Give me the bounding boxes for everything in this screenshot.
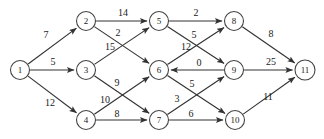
edge-weight-5-8: 2	[194, 7, 199, 18]
edge-weight-1-4: 12	[45, 97, 55, 108]
node-label-2: 2	[84, 16, 89, 26]
edge-weight-4-7: 8	[115, 108, 120, 119]
node-2: 2	[77, 12, 96, 31]
network-diagram-figure: 75121421591082512536082511 1234567891011	[0, 0, 324, 139]
node-label-1: 1	[18, 65, 23, 75]
edge-weight-7-9: 3	[175, 93, 180, 104]
edge-2-to-6	[94, 27, 149, 64]
node-6: 6	[150, 61, 169, 80]
node-label-10: 10	[231, 115, 241, 125]
edge-weight-10-11: 11	[263, 91, 273, 102]
edge-weight-9-11: 25	[266, 56, 276, 67]
node-9: 9	[225, 61, 244, 80]
node-label-4: 4	[84, 115, 89, 125]
edge-weight-2-5: 14	[118, 7, 128, 18]
node-7: 7	[150, 111, 169, 130]
edge-weight-1-3: 5	[51, 56, 56, 67]
node-label-3: 3	[84, 65, 89, 75]
edge-weight-7-10: 6	[189, 108, 194, 119]
node-1: 1	[11, 61, 30, 80]
edge-weight-6-10: 5	[190, 78, 195, 89]
node-label-9: 9	[232, 65, 237, 75]
edge-3-to-5	[94, 28, 149, 65]
edge-weight-1-2: 7	[44, 29, 49, 40]
edge-weight-9-6: 0	[197, 57, 202, 68]
edge-weight-6-8: 12	[181, 41, 191, 52]
node-label-5: 5	[157, 16, 162, 26]
network-diagram-canvas: 75121421591082512536082511 1234567891011	[0, 0, 324, 139]
node-8: 8	[225, 12, 244, 31]
node-4: 4	[77, 111, 96, 130]
edge-weight-2-6: 2	[116, 27, 121, 38]
node-label-7: 7	[157, 115, 162, 125]
node-5: 5	[150, 12, 169, 31]
node-label-8: 8	[232, 16, 237, 26]
edge-weight-8-11: 8	[269, 28, 274, 39]
edge-weight-3-7: 9	[115, 77, 120, 88]
edge-weight-3-5: 15	[105, 41, 115, 52]
edge-weight-5-9: 5	[192, 29, 197, 40]
edge-weight-4-6: 10	[100, 94, 110, 105]
node-3: 3	[77, 61, 96, 80]
node-label-11: 11	[301, 65, 310, 75]
node-label-6: 6	[157, 65, 162, 75]
node-10: 10	[226, 111, 245, 130]
node-11: 11	[295, 60, 315, 80]
